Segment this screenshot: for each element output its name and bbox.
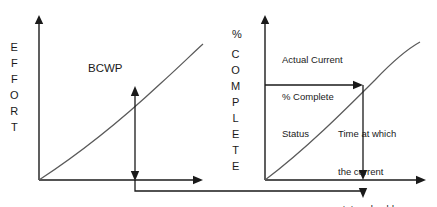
right-chart-y-axis-label: C O M P L E T E [231, 47, 241, 175]
bcwp-curve-label: BCWP [88, 62, 123, 76]
cross-chart-connector [135, 180, 367, 198]
effort-letter-4: R [10, 104, 18, 120]
time-achieved-line-2: status should [338, 203, 396, 207]
complete-letter-6: T [232, 143, 239, 159]
left-x-axis-arrowhead [193, 176, 203, 185]
left-y-axis-arrowhead [35, 15, 43, 24]
actual-status-arrowhead [353, 81, 363, 90]
time-achieved-note: Time at which the current status should … [338, 103, 396, 207]
time-achieved-line-0: Time at which [338, 128, 396, 141]
effort-letter-0: E [11, 40, 19, 56]
effort-letter-3: O [10, 88, 19, 104]
diagram-canvas: E F F O R T BCWP % C O M P L E T E Actua… [0, 0, 437, 207]
actual-current-status-note: Actual Current % Complete Status [282, 29, 343, 165]
complete-letter-3: P [232, 95, 240, 111]
actual-status-line-1: % Complete [282, 91, 343, 103]
right-y-axis-arrowhead [261, 15, 269, 24]
left-chart-y-axis-label: E F F O R T [10, 40, 19, 136]
actual-status-line-0: Actual Current [282, 54, 343, 66]
right-chart-percent-symbol: % [232, 28, 242, 41]
effort-letter-5: T [11, 120, 18, 136]
complete-letter-5: E [232, 127, 240, 143]
connector-path [135, 180, 363, 191]
effort-letter-2: F [11, 72, 18, 88]
complete-letter-4: L [233, 111, 240, 127]
complete-letter-0: C [232, 47, 240, 63]
right-x-axis-arrowhead [416, 176, 426, 185]
time-achieved-line-1: the current [338, 166, 396, 179]
effort-letter-1: F [11, 56, 18, 72]
complete-letter-2: M [231, 79, 241, 95]
left-effort-chart [35, 15, 203, 184]
bcwp-arrow-up-head [131, 86, 139, 96]
complete-letter-1: O [231, 63, 240, 79]
complete-letter-7: E [232, 159, 240, 175]
actual-status-line-2: Status [282, 128, 343, 140]
